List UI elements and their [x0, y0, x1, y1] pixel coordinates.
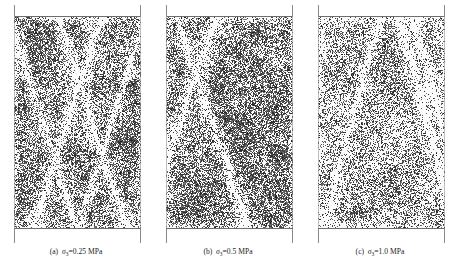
panel-a: (a) σ3=0.25 MPa — [0, 0, 152, 272]
corner-tick-bottom-right-a — [140, 229, 141, 243]
caption-value-c: 1.0 — [379, 247, 389, 256]
platen-rule-top-a — [14, 16, 141, 17]
corner-tick-top-right-c — [444, 5, 445, 17]
figure-specimen-failure-patterns: (a) σ3=0.25 MPa (b) σ3=0.5 MPa (c) — [0, 0, 456, 272]
specimen-image-b — [166, 17, 293, 228]
platen-rule-bottom-a — [14, 228, 141, 229]
caption-label-c: (c) — [356, 247, 364, 256]
specimen-canvas-c — [318, 17, 445, 228]
corner-tick-bottom-left-c — [318, 229, 319, 243]
caption-value-a: 0.25 — [73, 247, 86, 256]
caption-label-a: (a) — [50, 247, 58, 256]
platen-rule-top-b — [166, 16, 293, 17]
panel-b: (b) σ3=0.5 MPa — [152, 0, 304, 272]
corner-tick-bottom-left-b — [166, 229, 167, 243]
caption-value-b: 0.5 — [227, 247, 237, 256]
caption-b: (b) σ3=0.5 MPa — [152, 247, 304, 257]
caption-unit-c: MPa — [390, 247, 404, 256]
caption-label-b: (b) — [203, 247, 212, 256]
corner-tick-top-left-c — [318, 5, 319, 17]
platen-rule-bottom-c — [318, 228, 445, 229]
corner-tick-top-left-b — [166, 5, 167, 17]
caption-unit-a: MPa — [88, 247, 102, 256]
corner-tick-top-left-a — [14, 5, 15, 17]
platen-rule-top-c — [318, 16, 445, 17]
specimen-canvas-a — [14, 17, 141, 228]
corner-tick-top-right-b — [292, 5, 293, 17]
caption-c: (c) σ3=1.0 MPa — [304, 247, 456, 257]
specimen-canvas-b — [166, 17, 293, 228]
corner-tick-bottom-right-b — [292, 229, 293, 243]
caption-subscript-c: 3 — [372, 251, 375, 257]
caption-a: (a) σ3=0.25 MPa — [0, 247, 152, 257]
corner-tick-bottom-right-c — [444, 229, 445, 243]
caption-subscript-b: 3 — [220, 251, 223, 257]
specimen-image-c — [318, 17, 445, 228]
platen-rule-bottom-b — [166, 228, 293, 229]
corner-tick-bottom-left-a — [14, 229, 15, 243]
specimen-image-a — [14, 17, 141, 228]
caption-unit-b: MPa — [238, 247, 252, 256]
panel-c: (c) σ3=1.0 MPa — [304, 0, 456, 272]
corner-tick-top-right-a — [140, 5, 141, 17]
